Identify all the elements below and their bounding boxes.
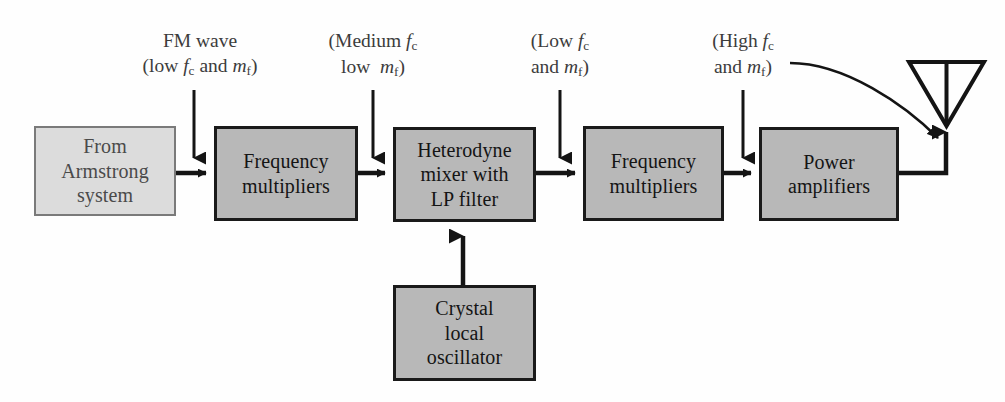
block-label-from-armstrong-system: From Armstrong system	[57, 134, 153, 207]
annotation-medium-fc: (Medium fc low mf)	[303, 28, 443, 80]
annotation-high-fc: (High fc and mf)	[678, 28, 808, 80]
annotation-medium-fc-line1: (Medium fc	[329, 30, 418, 51]
annotation-high-fc-line1: (High fc	[712, 30, 774, 51]
block-label-power-amplifiers: Power amplifiers	[784, 150, 874, 199]
block-crystal-local-oscillator[interactable]: Crystal local oscillator	[393, 285, 536, 381]
block-diagram-canvas: From Armstrong system Frequency multipli…	[0, 0, 1005, 402]
block-label-frequency-multipliers-2: Frequency multipliers	[606, 149, 702, 198]
block-power-amplifiers[interactable]: Power amplifiers	[759, 127, 899, 221]
block-frequency-multipliers-2[interactable]: Frequency multipliers	[583, 126, 724, 221]
annotation-fm-wave: FM wave (low fc and mf)	[130, 28, 270, 79]
annotation-low-fc: (Low fc and mf)	[495, 28, 625, 80]
annotation-fm-wave-line1: FM wave	[163, 30, 237, 51]
connector-power-to-antenna	[899, 132, 946, 173]
annotation-low-fc-line2: and mf)	[495, 54, 625, 80]
block-heterodyne-mixer[interactable]: Heterodyne mixer with LP filter	[393, 127, 536, 222]
block-frequency-multipliers-1[interactable]: Frequency multipliers	[214, 126, 358, 221]
block-label-heterodyne-mixer: Heterodyne mixer with LP filter	[413, 138, 515, 211]
annotation-medium-fc-line2: low mf)	[303, 54, 443, 80]
annotation-high-fc-line2: and mf)	[678, 54, 808, 80]
block-label-frequency-multipliers-1: Frequency multipliers	[238, 149, 334, 198]
annotation-fm-wave-line2: (low fc and mf)	[130, 53, 270, 79]
annotation-low-fc-line1: (Low fc	[531, 30, 589, 51]
antenna-icon	[909, 62, 984, 126]
block-label-crystal-local-oscillator: Crystal local oscillator	[423, 296, 506, 369]
block-from-armstrong-system[interactable]: From Armstrong system	[34, 126, 176, 216]
